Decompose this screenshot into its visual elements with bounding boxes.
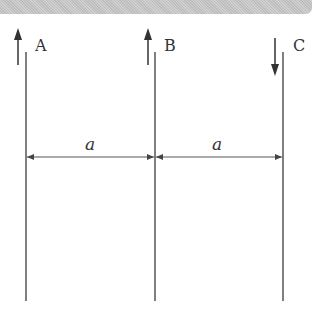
dimension-ab: a (27, 134, 154, 157)
dimension-bc-label: a (212, 134, 222, 154)
current-arrow-up-icon (14, 28, 22, 65)
dimension-ab-label: a (85, 134, 95, 154)
current-arrow-up-icon (144, 28, 152, 65)
wire-b-label: B (164, 36, 176, 55)
wire-a: A (14, 28, 47, 301)
wires-diagram: A B C a a (0, 0, 326, 321)
current-arrow-down-icon (271, 38, 279, 76)
wire-c-label: C (293, 36, 305, 55)
dimension-bc: a (156, 134, 282, 157)
wire-c: C (271, 36, 305, 301)
wire-b: B (144, 28, 176, 301)
wire-a-label: A (34, 36, 47, 55)
